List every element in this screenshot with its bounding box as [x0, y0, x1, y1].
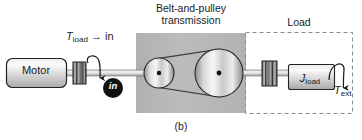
figure-drivetrain-schematic: Belt-and-pulley transmission Load Tload …: [0, 0, 362, 140]
transmission-label: Belt-and-pulley transmission: [136, 2, 246, 26]
coupling-motor-side: [73, 62, 86, 84]
torque-target: in: [105, 30, 114, 42]
transmission-label-line1: Belt-and-pulley: [156, 2, 226, 14]
torque-ext-subscript: ext: [341, 89, 352, 98]
coupling-load-side: [262, 61, 277, 86]
in-badge-label: in: [103, 80, 123, 91]
load-inertia-label: Jload: [288, 72, 332, 84]
load-group-label: Load: [245, 16, 353, 28]
shaft-pulley-to-coupling: [240, 70, 264, 76]
torque-ext-symbol: T: [334, 84, 341, 96]
pulley-small: [144, 58, 174, 88]
arrow-glyph-icon: →: [91, 30, 102, 42]
torque-symbol: T: [66, 30, 73, 42]
torque-external-label: Text: [334, 84, 351, 97]
transmission-label-line2: transmission: [162, 14, 221, 26]
motor-label: Motor: [6, 64, 66, 76]
pulley-large: [195, 49, 243, 97]
load-inertia-subscript: load: [305, 77, 320, 86]
torque-load-to-in-label: Tload → in: [66, 30, 114, 43]
torque-subscript: load: [73, 35, 88, 44]
figure-caption: (b): [0, 120, 362, 132]
